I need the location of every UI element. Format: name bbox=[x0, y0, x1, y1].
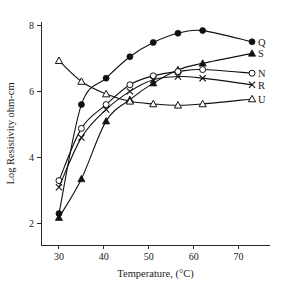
marker-filled-circle-Q-4 bbox=[150, 39, 156, 45]
y-tick-label-2: 2 bbox=[29, 218, 34, 229]
series-line-Q bbox=[59, 30, 252, 213]
y-tick-label-8: 8 bbox=[29, 20, 34, 31]
x-tick-label-60: 60 bbox=[189, 251, 199, 262]
marker-cross-R-3 bbox=[127, 88, 133, 94]
x-tick-label-70: 70 bbox=[234, 251, 244, 262]
series-Q: Q bbox=[56, 28, 266, 217]
marker-open-triangle-U-0 bbox=[55, 57, 62, 63]
marker-open-circle-N-6 bbox=[200, 67, 206, 73]
series-R: R bbox=[56, 73, 265, 190]
marker-filled-circle-Q-7 bbox=[249, 39, 255, 45]
marker-filled-triangle-S-7 bbox=[248, 50, 255, 56]
marker-open-circle-N-3 bbox=[127, 82, 133, 88]
resistivity-line-chart: 24683040506070Temperature, (°C)Log Resis… bbox=[0, 0, 289, 290]
series-label-U: U bbox=[258, 94, 266, 105]
marker-cross-R-1 bbox=[78, 135, 84, 141]
x-tick-label-50: 50 bbox=[144, 251, 154, 262]
figure-container: 24683040506070Temperature, (°C)Log Resis… bbox=[0, 0, 289, 290]
marker-filled-circle-Q-3 bbox=[127, 54, 133, 60]
y-tick-label-4: 4 bbox=[29, 152, 34, 163]
y-axis-title-text: Log Resistivity ohm-cm bbox=[5, 82, 16, 184]
marker-open-triangle-U-2 bbox=[103, 90, 110, 96]
marker-cross-R-0 bbox=[56, 184, 62, 190]
x-tick-label-30: 30 bbox=[54, 251, 64, 262]
marker-open-triangle-U-1 bbox=[78, 78, 85, 84]
marker-filled-circle-Q-6 bbox=[200, 28, 206, 34]
marker-filled-circle-Q-2 bbox=[103, 75, 109, 81]
x-tick-label-40: 40 bbox=[99, 251, 109, 262]
series-line-R bbox=[59, 76, 252, 187]
marker-open-circle-N-7 bbox=[249, 70, 255, 76]
series-label-S: S bbox=[258, 48, 264, 59]
series-label-Q: Q bbox=[258, 37, 266, 48]
marker-open-triangle-U-7 bbox=[248, 95, 255, 101]
marker-open-circle-N-1 bbox=[78, 125, 84, 131]
x-axis-title-text: Temperature, (°C) bbox=[117, 268, 194, 280]
marker-filled-circle-Q-5 bbox=[175, 30, 181, 36]
y-tick-label-6: 6 bbox=[29, 86, 34, 97]
series-label-R: R bbox=[258, 80, 265, 91]
marker-filled-triangle-S-1 bbox=[78, 175, 85, 181]
axis-frame bbox=[41, 22, 270, 245]
marker-filled-triangle-S-2 bbox=[103, 118, 110, 124]
marker-filled-circle-Q-1 bbox=[78, 102, 84, 108]
series-label-N: N bbox=[258, 68, 266, 79]
